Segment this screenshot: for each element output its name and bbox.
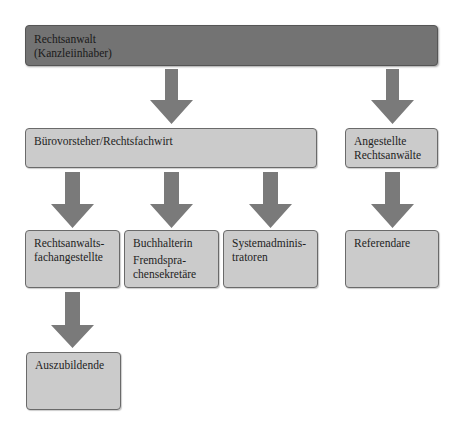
node-accounting-line-1: Buchhalterin bbox=[133, 236, 210, 250]
node-sysadmins-line-1: Systemadminis- bbox=[232, 236, 309, 250]
node-employed-lawyers-line-2: Rechtsanwälte bbox=[354, 148, 429, 162]
node-sysadmins-line-2: tratoren bbox=[232, 250, 309, 264]
node-owner-line-1: Rechtsanwalt bbox=[34, 32, 429, 46]
node-owner: Rechtsanwalt (Kanzleiinhaber) bbox=[25, 25, 438, 66]
node-accounting-line-2: Fremdspra- bbox=[133, 253, 210, 267]
node-employed-lawyers: Angestellte Rechtsanwälte bbox=[345, 128, 438, 168]
arrow-down-icon bbox=[249, 172, 292, 228]
arrow-down-icon bbox=[371, 69, 414, 124]
arrow-down-icon bbox=[150, 69, 193, 124]
node-apprentices: Auszubildende bbox=[26, 352, 121, 410]
node-accounting-line-3: chensekretäre bbox=[133, 267, 210, 281]
node-paralegals-line-2: fachangestellte bbox=[34, 250, 111, 264]
node-office-manager: Bürovorsteher/Rechtsfachwirt bbox=[25, 128, 317, 168]
node-paralegals-line-1: Rechtsanwalts- bbox=[34, 236, 111, 250]
arrow-down-icon bbox=[150, 172, 193, 228]
node-office-manager-line-1: Bürovorsteher/Rechtsfachwirt bbox=[34, 134, 308, 148]
arrow-down-icon bbox=[371, 172, 414, 228]
node-accounting: Buchhalterin Fremdspra- chensekretäre bbox=[124, 230, 219, 288]
node-employed-lawyers-line-1: Angestellte bbox=[354, 134, 429, 148]
node-trainee-lawyers-line-1: Referendare bbox=[354, 236, 430, 250]
node-paralegals: Rechtsanwalts- fachangestellte bbox=[25, 230, 120, 288]
node-owner-line-2: (Kanzleiinhaber) bbox=[34, 46, 429, 60]
arrow-down-icon bbox=[51, 172, 94, 228]
node-trainee-lawyers: Referendare bbox=[345, 230, 439, 288]
node-sysadmins: Systemadminis- tratoren bbox=[223, 230, 318, 288]
node-apprentices-line-1: Auszubildende bbox=[35, 358, 112, 372]
arrow-down-icon bbox=[51, 292, 94, 348]
